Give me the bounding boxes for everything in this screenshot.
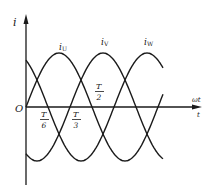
three-phase-waveform-diagram: i O ωt t iU iV iW T 6 T 3 T 2 — [0, 0, 216, 194]
tick-T-over-6: T 6 — [40, 110, 49, 130]
curve-label-iU: iU — [59, 42, 67, 52]
svg-text:6: 6 — [42, 121, 47, 130]
origin-label: O — [15, 103, 23, 114]
y-axis-label: i — [13, 16, 17, 29]
x-axis-label-t: t — [197, 111, 200, 119]
svg-text:T: T — [96, 82, 102, 91]
y-axis-arrow-icon — [24, 14, 29, 24]
svg-text:3: 3 — [74, 121, 79, 130]
tick-T-over-2: T 2 — [95, 82, 104, 102]
svg-text:T: T — [73, 110, 79, 119]
curve-label-iW: iW — [144, 37, 154, 47]
svg-text:T: T — [41, 110, 47, 119]
svg-text:2: 2 — [96, 93, 102, 102]
curve-label-iV: iV — [101, 37, 109, 47]
x-axis-arrow-icon — [192, 105, 202, 110]
x-axis-label-omega-t: ωt — [192, 96, 201, 104]
tick-T-over-3: T 3 — [72, 110, 81, 130]
axes — [24, 14, 203, 185]
